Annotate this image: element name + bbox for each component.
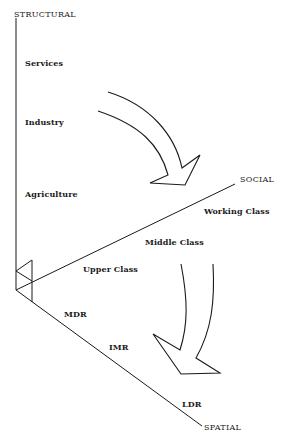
label-ldr: LDR [182,400,202,408]
label-working-class: Working Class [204,207,270,215]
curved-arrow-structural-to-social [98,92,200,185]
label-agriculture: Agriculture [25,190,78,198]
label-middle-class: Middle Class [145,238,204,246]
social-axis-label: SOCIAL [240,176,274,184]
label-imr: IMR [109,343,129,351]
origin-corner-link [16,271,32,281]
curved-arrow-social-to-spatial [153,264,220,374]
structural-axis-label: STRUCTURAL [14,11,76,19]
three-axis-diagram: STRUCTURAL SOCIAL SPATIAL Services Indus… [0,0,282,446]
label-mdr: MDR [64,310,87,318]
label-upper-class: Upper Class [83,265,138,273]
label-industry: Industry [25,118,64,126]
label-services: Services [25,59,63,67]
spatial-axis-label: SPATIAL [204,424,241,432]
spatial-axis [16,290,202,426]
